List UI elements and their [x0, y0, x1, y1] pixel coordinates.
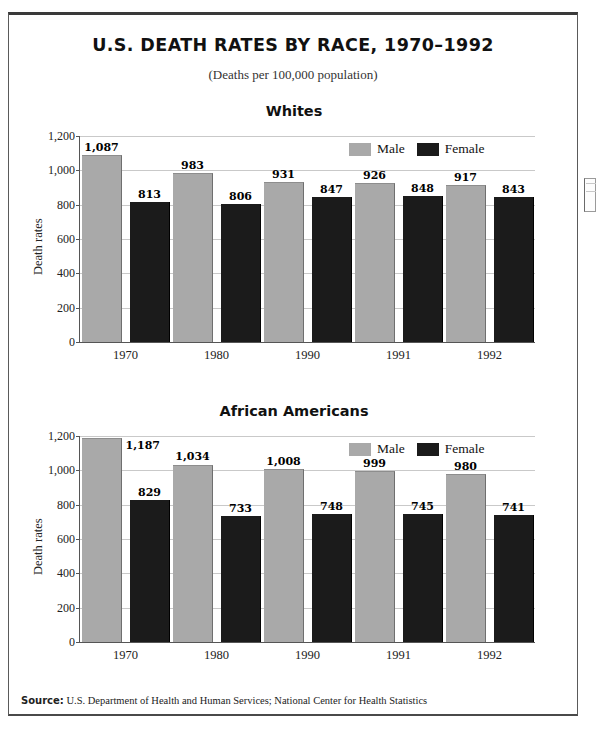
source-label: Source:: [21, 695, 64, 706]
legend-label: Female: [445, 141, 485, 157]
x-tick-label: 1992: [444, 648, 535, 663]
y-tick-mark: [76, 436, 80, 437]
bar-value-label: 848: [395, 182, 451, 195]
y-tick-mark: [76, 539, 80, 540]
y-tick-label: 0: [69, 635, 75, 650]
bar-male-1980: [173, 465, 213, 643]
plot-area: 02004006008001,0001,2001,18782919701,034…: [79, 436, 535, 643]
bar-value-label: 983: [165, 159, 221, 172]
bar-male-1980: [173, 173, 213, 342]
bar-female-1980: [221, 516, 261, 642]
y-tick-mark: [76, 608, 80, 609]
legend-item-male: Male: [349, 441, 405, 457]
legend-item-female: Female: [417, 141, 485, 157]
bar-value-label: 843: [486, 183, 542, 196]
bar-male-1990: [264, 182, 304, 342]
x-tick-label: 1990: [262, 648, 353, 663]
legend-label: Male: [377, 141, 405, 157]
chart-legend: MaleFemale: [349, 441, 485, 457]
legend-label: Female: [445, 441, 485, 457]
y-tick-mark: [76, 342, 80, 343]
y-tick-mark: [76, 170, 80, 171]
legend-item-female: Female: [417, 441, 485, 457]
bar-value-label: 733: [213, 502, 269, 515]
bar-female-1991: [403, 514, 443, 642]
bar-value-label: 741: [486, 501, 542, 514]
y-tick-mark: [76, 308, 80, 309]
y-tick-mark: [76, 505, 80, 506]
y-tick-mark: [76, 205, 80, 206]
y-tick-label: 200: [57, 600, 75, 615]
page-subtitle: (Deaths per 100,000 population): [9, 67, 577, 83]
bar-value-label: 829: [122, 486, 178, 499]
bar-female-1991: [403, 196, 443, 342]
y-tick-mark: [76, 470, 80, 471]
bar-value-label: 999: [347, 457, 403, 470]
bar-value-label: 745: [395, 500, 451, 513]
x-tick-label: 1991: [353, 648, 444, 663]
source-note: Source: U.S. Department of Health and Hu…: [21, 695, 427, 706]
chart-african-americans: African Americans Death rates02004006008…: [9, 403, 579, 678]
y-tick-label: 0: [69, 335, 75, 350]
y-tick-label: 800: [57, 197, 75, 212]
plot-area: 02004006008001,0001,2001,087813197098380…: [79, 136, 535, 343]
x-tick-label: 1980: [171, 648, 262, 663]
legend-label: Male: [377, 441, 405, 457]
x-tick-label: 1990: [262, 348, 353, 363]
bar-male-1991: [355, 183, 395, 342]
y-tick-label: 1,200: [48, 129, 75, 144]
bar-male-1991: [355, 471, 395, 642]
page-frame: U.S. DEATH RATES BY RACE, 1970–1992 (Dea…: [8, 12, 578, 716]
y-tick-label: 1,000: [48, 163, 75, 178]
y-tick-label: 200: [57, 300, 75, 315]
bar-value-label: 926: [347, 169, 403, 182]
legend-item-male: Male: [349, 141, 405, 157]
y-tick-label: 400: [57, 566, 75, 581]
x-tick-label: 1992: [444, 348, 535, 363]
bar-female-1970: [130, 202, 170, 342]
y-tick-mark: [76, 642, 80, 643]
chart-whites: Whites Death rates02004006008001,0001,20…: [9, 103, 579, 378]
bar-female-1990: [312, 197, 352, 342]
bar-value-label: 917: [438, 171, 494, 184]
chart-title: African Americans: [9, 403, 579, 419]
legend-swatch-female: [417, 143, 439, 156]
bar-female-1992: [494, 515, 534, 642]
bar-male-1992: [446, 474, 486, 642]
bar-value-label: 813: [122, 188, 178, 201]
bar-value-label: 1,008: [256, 455, 312, 468]
bar-female-1990: [312, 514, 352, 642]
bar-value-label: 1,187: [126, 439, 160, 452]
legend-swatch-male: [349, 443, 371, 456]
page-title: U.S. DEATH RATES BY RACE, 1970–1992: [9, 35, 577, 55]
chart-title: Whites: [9, 103, 579, 119]
legend-swatch-male: [349, 143, 371, 156]
source-text: U.S. Department of Health and Human Serv…: [66, 695, 427, 706]
chart-legend: MaleFemale: [349, 141, 485, 157]
gridline: [80, 136, 535, 137]
y-tick-mark: [76, 136, 80, 137]
y-axis-title: Death rates: [31, 218, 46, 275]
bar-male-1970: [82, 438, 122, 642]
y-tick-label: 800: [57, 497, 75, 512]
bar-value-label: 1,034: [165, 450, 221, 463]
bar-value-label: 847: [304, 183, 360, 196]
x-tick-label: 1970: [80, 648, 171, 663]
y-axis-title: Death rates: [31, 518, 46, 575]
bar-value-label: 980: [438, 460, 494, 473]
bar-male-1970: [82, 155, 122, 342]
y-tick-label: 1,000: [48, 463, 75, 478]
bar-value-label: 806: [213, 190, 269, 203]
x-tick-label: 1970: [80, 348, 171, 363]
gridline: [80, 436, 535, 437]
y-tick-mark: [76, 573, 80, 574]
y-tick-mark: [76, 273, 80, 274]
bar-female-1980: [221, 204, 261, 342]
bar-male-1992: [446, 185, 486, 342]
y-tick-label: 400: [57, 266, 75, 281]
bar-female-1970: [130, 500, 170, 642]
bar-female-1992: [494, 197, 534, 342]
y-tick-label: 1,200: [48, 429, 75, 444]
legend-swatch-female: [417, 443, 439, 456]
bar-value-label: 1,087: [74, 141, 130, 154]
